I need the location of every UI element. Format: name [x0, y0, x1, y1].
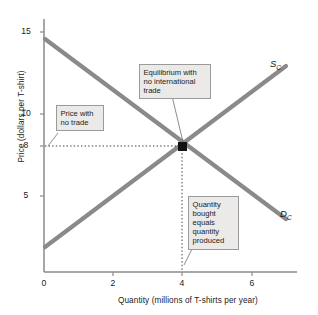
- supply-demand-chart: Price (dollars per T-shirt) Quantity (mi…: [0, 0, 318, 315]
- quantity-callout: Quantity bought equals quantity produced: [188, 196, 239, 250]
- y-tick-label-10: 10: [16, 108, 36, 118]
- x-axis-title: Quantity (millions of T-shirts per year): [118, 296, 258, 305]
- demand-curve-letter: D: [280, 208, 287, 219]
- x-tick-label-6: 6: [242, 278, 262, 288]
- price-leader-line: [48, 133, 58, 146]
- chart-canvas: [0, 0, 318, 315]
- equilibrium-callout: Equilibrium with no international trade: [139, 64, 211, 99]
- demand-curve-label: DC: [280, 208, 292, 221]
- supply-curve-label: SC: [270, 58, 281, 71]
- y-tick-label-5: 5: [16, 190, 36, 200]
- price-callout: Price with no trade: [56, 105, 104, 131]
- y-tick-label-15: 15: [16, 26, 36, 36]
- y-tick-label-8: 8: [16, 140, 36, 150]
- x-tick-label-4: 4: [172, 278, 192, 288]
- x-tick-label-0: 0: [34, 278, 54, 288]
- equilibrium-point-marker: [178, 142, 187, 151]
- supply-curve-subscript: C: [276, 64, 281, 71]
- x-tick-label-2: 2: [103, 278, 123, 288]
- demand-curve-subscript: C: [287, 214, 292, 221]
